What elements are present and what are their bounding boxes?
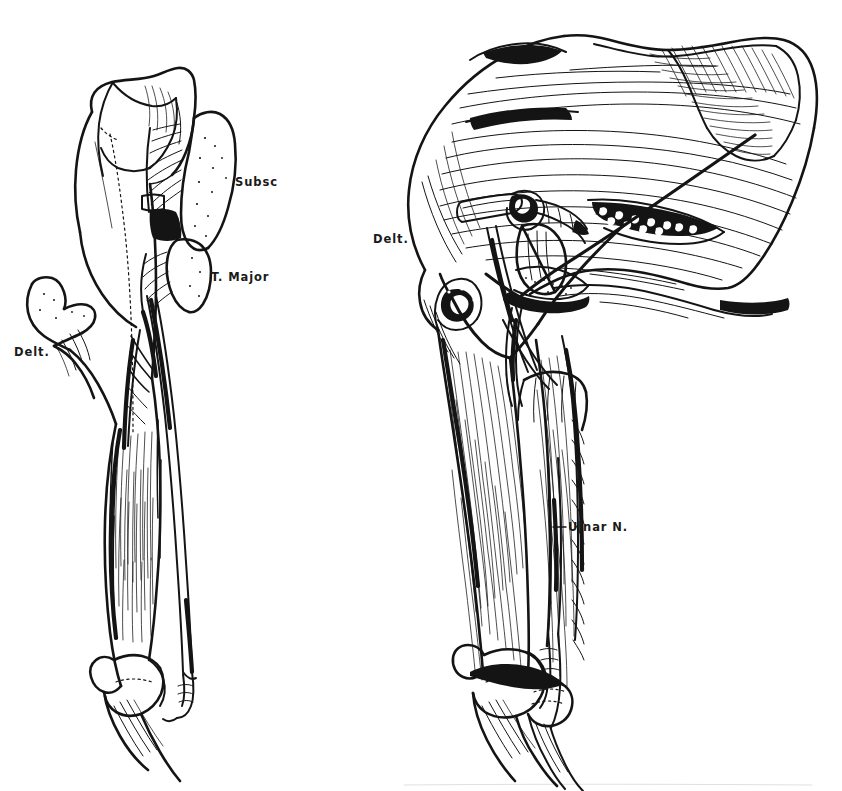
- anatomy-illustration-canvas: Subsc T. Major Delt. Delt. Ulnar N.: [0, 0, 842, 791]
- label-deltoid-left: Delt.: [14, 345, 50, 359]
- dissection-shadow-wedge: [150, 209, 182, 241]
- label-subsc: Subsc: [235, 175, 278, 189]
- label-teres-major: T. Major: [211, 270, 269, 284]
- label-ulnar-nerve: Ulnar N.: [568, 520, 628, 534]
- anatomical-plate: Subsc T. Major Delt. Delt. Ulnar N.: [0, 0, 842, 791]
- label-deltoid-right: Delt.: [373, 232, 409, 246]
